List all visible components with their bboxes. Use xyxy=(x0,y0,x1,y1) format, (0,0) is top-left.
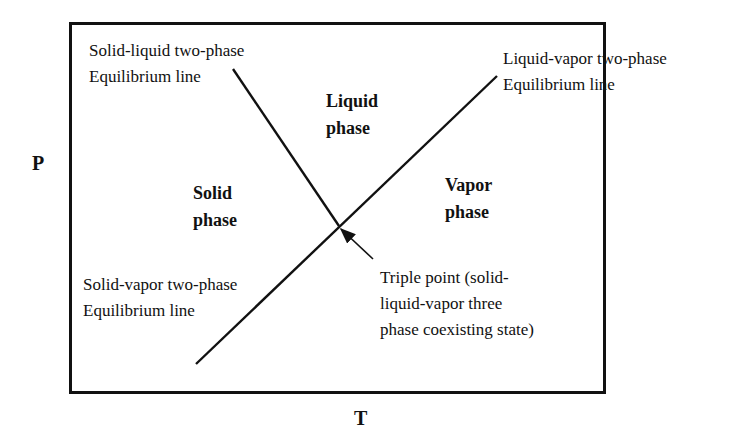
annotation-line: liquid-vapor three xyxy=(380,291,534,317)
vapor-region-label: Vapor phase xyxy=(445,172,492,226)
solid-liquid-line xyxy=(233,69,339,226)
region-line: Vapor xyxy=(445,172,492,199)
annotation-line: Solid-liquid two-phase xyxy=(89,38,244,64)
solid-vapor-annotation: Solid-vapor two-phase Equilibrium line xyxy=(83,272,237,324)
region-line: phase xyxy=(326,115,378,142)
x-axis-label: T xyxy=(354,407,367,430)
region-line: phase xyxy=(193,207,237,234)
annotation-line: Equilibrium line xyxy=(89,64,244,90)
annotation-line: Liquid-vapor two-phase xyxy=(503,46,667,72)
annotation-line: phase coexisting state) xyxy=(380,317,534,343)
annotation-line: Equilibrium line xyxy=(83,298,237,324)
annotation-line: Equilibrium line xyxy=(503,72,667,98)
annotation-line: Solid-vapor two-phase xyxy=(83,272,237,298)
liquid-vapor-annotation: Liquid-vapor two-phase Equilibrium line xyxy=(503,46,667,98)
triple-point-arrow xyxy=(341,229,373,259)
region-line: phase xyxy=(445,199,492,226)
solid-region-label: Solid phase xyxy=(193,180,237,234)
triple-point-annotation: Triple point (solid- liquid-vapor three … xyxy=(380,265,534,343)
region-line: Liquid xyxy=(326,88,378,115)
y-axis-label: P xyxy=(32,152,44,175)
annotation-line: Triple point (solid- xyxy=(380,265,534,291)
solid-liquid-annotation: Solid-liquid two-phase Equilibrium line xyxy=(89,38,244,90)
region-line: Solid xyxy=(193,180,237,207)
liquid-region-label: Liquid phase xyxy=(326,88,378,142)
